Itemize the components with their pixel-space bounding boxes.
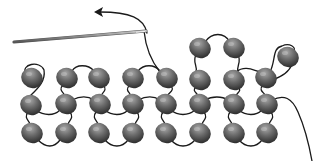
thread-r3-b xyxy=(105,140,128,146)
thread-top-down-l xyxy=(195,55,197,72)
thread-r3-c xyxy=(171,140,195,146)
thread-r3-d xyxy=(239,140,262,146)
direction-arrow-curve xyxy=(100,12,147,33)
bead xyxy=(119,64,147,91)
beads xyxy=(17,34,302,146)
bead xyxy=(85,64,113,91)
bead xyxy=(53,64,81,91)
bead xyxy=(252,64,280,91)
bead xyxy=(220,34,248,61)
bead xyxy=(152,119,180,146)
thread-r3-a xyxy=(38,140,60,146)
bead xyxy=(18,64,46,91)
bead-stitch-diagram xyxy=(0,0,321,161)
bead xyxy=(17,91,45,118)
bead xyxy=(52,119,80,146)
bead xyxy=(220,66,248,93)
bead xyxy=(220,119,248,146)
bead xyxy=(52,90,80,117)
thread-r2-h xyxy=(272,97,312,161)
thread-r1-a xyxy=(72,66,94,71)
bead xyxy=(186,66,214,93)
bead xyxy=(186,34,214,61)
bead xyxy=(85,119,113,146)
diagram-canvas xyxy=(0,0,321,161)
bead xyxy=(253,119,281,146)
needle xyxy=(14,31,146,42)
bead xyxy=(186,119,214,146)
bead xyxy=(119,119,147,146)
